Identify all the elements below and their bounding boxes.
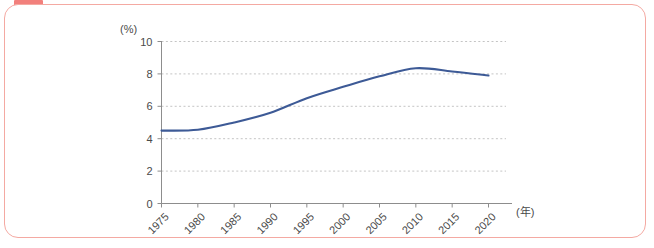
line-chart: 0246810 19751980198519901995200020052010… <box>0 0 654 248</box>
x-tick-label: 1980 <box>181 210 207 236</box>
x-tick-label: 1975 <box>145 210 171 236</box>
x-tick-label: 2010 <box>399 210 425 236</box>
screenshot-root: 0246810 19751980198519901995200020052010… <box>0 0 654 248</box>
x-tick-label: 1995 <box>290 210 316 236</box>
y-axis-tick-labels: 0246810 <box>140 36 152 210</box>
x-tick-label: 1990 <box>254 210 280 236</box>
x-tick-label: 2005 <box>363 210 389 236</box>
x-tick-label: 2000 <box>327 210 353 236</box>
x-tick-label: 2020 <box>472 210 498 236</box>
gridlines-group <box>162 42 507 172</box>
x-tick-label: 1985 <box>218 210 244 236</box>
x-axis-unit-label: (年) <box>516 205 534 218</box>
x-tick-marks-group <box>162 204 489 208</box>
y-tick-label: 8 <box>146 68 152 80</box>
y-tick-label: 4 <box>146 133 152 145</box>
chart-canvas: 0246810 19751980198519901995200020052010… <box>0 0 654 248</box>
y-tick-label: 2 <box>146 165 152 177</box>
y-tick-label: 10 <box>140 36 152 48</box>
y-tick-label: 6 <box>146 100 152 112</box>
y-tick-marks-group <box>158 42 162 204</box>
y-axis-unit-label: (%) <box>120 23 137 35</box>
y-tick-label: 0 <box>146 198 152 210</box>
x-axis-tick-labels: 1975198019851990199520002005201020152020 <box>145 210 498 236</box>
x-tick-label: 2015 <box>436 210 462 236</box>
data-series-line <box>162 68 489 131</box>
